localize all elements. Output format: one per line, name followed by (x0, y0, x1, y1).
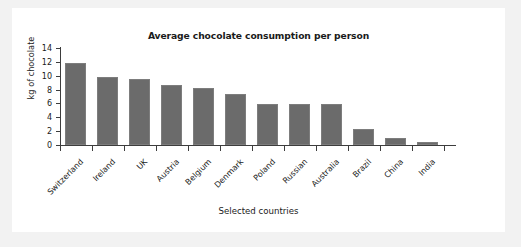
y-tick-label: 4 (20, 113, 52, 122)
y-tick-label: 6 (20, 99, 52, 108)
bar-austria (161, 85, 182, 145)
x-tick (220, 146, 221, 151)
x-tick (124, 146, 125, 151)
bar-belgium (193, 88, 214, 145)
x-tick (444, 146, 445, 151)
chart-title: Average chocolate consumption per person (12, 30, 505, 41)
chart-figure: Average chocolate consumption per person… (12, 8, 505, 232)
bar-australia (321, 104, 342, 145)
bar-ireland (97, 77, 118, 145)
x-tick (92, 146, 93, 151)
x-tick (252, 146, 253, 151)
x-tick (316, 146, 317, 151)
x-axis-line (60, 145, 456, 146)
bar-brazil (353, 129, 374, 145)
y-tick-label: 10 (20, 71, 52, 80)
y-tick-label: 2 (20, 127, 52, 136)
bar-poland (257, 104, 278, 145)
x-tick (348, 146, 349, 151)
x-axis-title: Selected countries (12, 206, 505, 216)
x-tick (412, 146, 413, 151)
x-tick (380, 146, 381, 151)
x-tick (188, 146, 189, 151)
y-tick-label: 8 (20, 85, 52, 94)
y-tick-label: 12 (20, 57, 52, 66)
bar-uk (129, 79, 150, 145)
plot-area (60, 48, 444, 145)
bar-russian (289, 104, 310, 145)
bar-china (385, 138, 406, 145)
y-tick-label: 14 (20, 44, 52, 53)
bar-denmark (225, 94, 246, 145)
x-tick (60, 146, 61, 151)
y-tick-label: 0 (20, 141, 52, 150)
bar-india (417, 142, 438, 145)
bar-switzerland (65, 63, 86, 145)
x-tick (156, 146, 157, 151)
x-tick (284, 146, 285, 151)
